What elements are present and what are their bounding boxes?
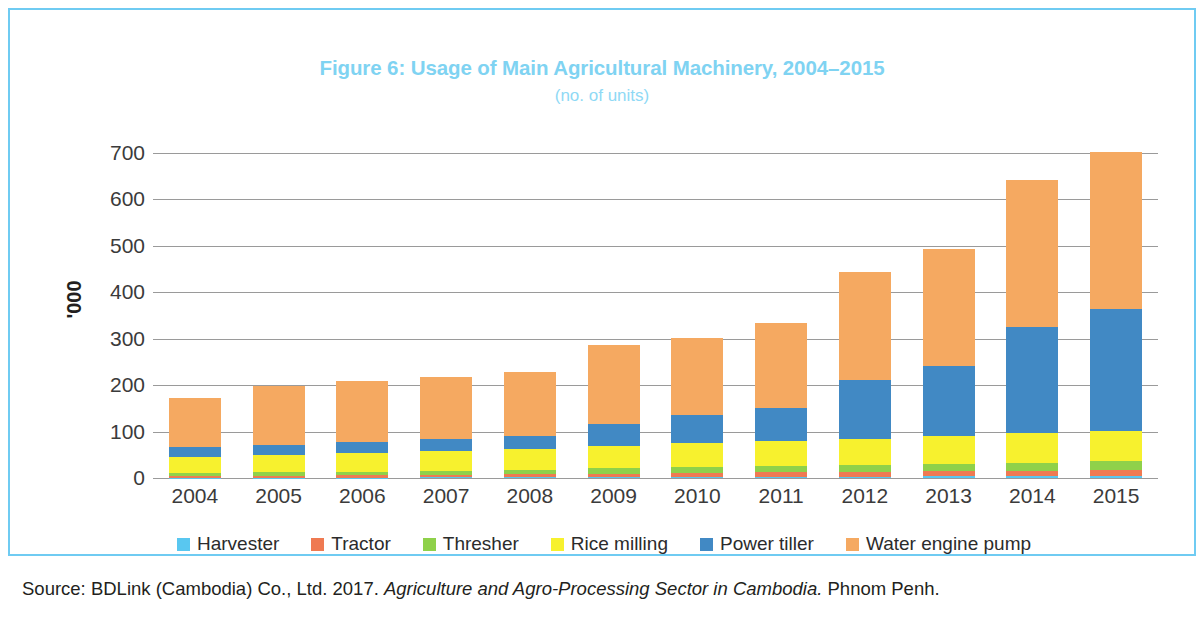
- bar-slot: [404, 153, 488, 478]
- gridline-0: [153, 478, 1158, 479]
- x-tick-label: 2009: [572, 484, 656, 516]
- bar-segment: [336, 381, 388, 441]
- legend-item[interactable]: Tractor: [311, 533, 390, 555]
- x-tick-label: 2008: [488, 484, 572, 516]
- bar-slot: [237, 153, 321, 478]
- bar-segment: [588, 345, 640, 424]
- stacked-bar[interactable]: [588, 345, 640, 478]
- y-tick-label: 300: [71, 327, 145, 351]
- x-tick-label: 2014: [991, 484, 1075, 516]
- bar-segment: [169, 457, 221, 473]
- y-tick-label: 600: [71, 187, 145, 211]
- bar-segment: [755, 323, 807, 408]
- bar-segment: [1006, 180, 1058, 327]
- bar-slot: [656, 153, 740, 478]
- legend-item[interactable]: Power tiller: [700, 533, 814, 555]
- bar-segment: [1090, 461, 1142, 469]
- stacked-bar[interactable]: [923, 249, 975, 478]
- bar-segment: [923, 476, 975, 478]
- bar-segment: [336, 442, 388, 453]
- stacked-bar[interactable]: [1006, 180, 1058, 478]
- legend-swatch-icon: [423, 538, 436, 551]
- source-suffix: Phnom Penh.: [822, 578, 939, 599]
- bar-slot: [572, 153, 656, 478]
- x-tick-label: 2006: [321, 484, 405, 516]
- bar-segment: [1006, 463, 1058, 471]
- bar-segment: [588, 424, 640, 446]
- x-tick-label: 2012: [823, 484, 907, 516]
- page-title: Figure 6: Usage of Main Agricultural Mac…: [10, 56, 1194, 80]
- bar-segment: [1090, 476, 1142, 478]
- bar-segment: [504, 449, 556, 469]
- bar-segment: [839, 465, 891, 472]
- legend-swatch-icon: [551, 538, 564, 551]
- bar-segment: [671, 338, 723, 416]
- y-tick-label: 100: [71, 420, 145, 444]
- bar-segment: [420, 451, 472, 471]
- bar-segment: [839, 272, 891, 379]
- stacked-bar[interactable]: [1090, 152, 1142, 478]
- bar-segment: [253, 445, 305, 455]
- bar-segment: [839, 439, 891, 465]
- legend-item[interactable]: Thresher: [423, 533, 519, 555]
- x-axis-tick-labels: 2004200520062007200820092010201120122013…: [153, 484, 1158, 516]
- stacked-bar[interactable]: [671, 338, 723, 478]
- bar-segment: [1090, 431, 1142, 462]
- legend-label: Thresher: [443, 533, 519, 555]
- x-tick-label: 2005: [237, 484, 321, 516]
- bar-segment: [588, 446, 640, 468]
- bar-segment: [420, 377, 472, 439]
- bar-segment: [504, 372, 556, 436]
- stacked-bar[interactable]: [839, 272, 891, 478]
- bar-slot: [488, 153, 572, 478]
- bar-segment: [923, 436, 975, 464]
- x-tick-label: 2010: [656, 484, 740, 516]
- bar-slot: [991, 153, 1075, 478]
- bar-segment: [839, 380, 891, 439]
- legend-item[interactable]: Rice milling: [551, 533, 668, 555]
- legend-item[interactable]: Harvester: [177, 533, 279, 555]
- bar-segment: [671, 415, 723, 443]
- bar-segment: [253, 386, 305, 445]
- legend-swatch-icon: [177, 538, 190, 551]
- stacked-bar[interactable]: [755, 323, 807, 478]
- bar-segment: [253, 455, 305, 473]
- legend-label: Power tiller: [720, 533, 814, 555]
- bar-segment: [1006, 327, 1058, 433]
- bar-segment: [169, 447, 221, 456]
- figure-frame: Figure 6: Usage of Main Agricultural Mac…: [8, 8, 1196, 556]
- bar-segment: [420, 477, 472, 478]
- bar-segment: [1090, 309, 1142, 431]
- figure-subtitle: (no. of units): [10, 86, 1194, 106]
- y-tick-label: 0: [71, 466, 145, 490]
- source-prefix: Source: BDLink (Cambodia) Co., Ltd. 2017…: [22, 578, 384, 599]
- bar-segment: [336, 453, 388, 472]
- bar-segment: [671, 443, 723, 467]
- stacked-bar[interactable]: [420, 377, 472, 478]
- bar-segment: [755, 477, 807, 478]
- legend-swatch-icon: [700, 538, 713, 551]
- legend-swatch-icon: [846, 538, 859, 551]
- y-axis-tick-labels: 0100200300400500600700: [65, 153, 145, 478]
- bar-slot: [321, 153, 405, 478]
- x-tick-label: 2013: [907, 484, 991, 516]
- legend-item[interactable]: Water engine pump: [846, 533, 1031, 555]
- stacked-bar[interactable]: [253, 386, 305, 478]
- stacked-bar[interactable]: [169, 398, 221, 478]
- legend-label: Rice milling: [571, 533, 668, 555]
- legend-swatch-icon: [311, 538, 324, 551]
- bar-segment: [923, 249, 975, 366]
- bar-slot: [1074, 153, 1158, 478]
- stacked-bar[interactable]: [504, 372, 556, 478]
- legend-label: Water engine pump: [866, 533, 1031, 555]
- bar-segment: [839, 477, 891, 478]
- bar-segment: [923, 464, 975, 471]
- bar-slot: [739, 153, 823, 478]
- chart-legend: HarvesterTractorThresherRice millingPowe…: [10, 533, 1198, 555]
- legend-label: Tractor: [331, 533, 390, 555]
- stacked-bar[interactable]: [336, 381, 388, 478]
- source-title-italic: Agriculture and Agro-Processing Sector i…: [384, 578, 822, 599]
- bar-segment: [588, 477, 640, 478]
- y-tick-label: 700: [71, 141, 145, 165]
- bar-segment: [420, 439, 472, 451]
